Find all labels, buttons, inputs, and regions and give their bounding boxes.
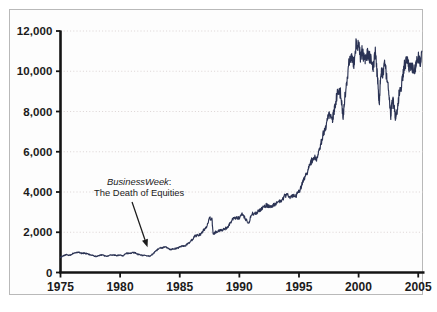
y-tick-label: 0	[46, 267, 53, 279]
y-axis-ticks: 02,0004,0006,0008,00010,00012,000	[17, 25, 61, 279]
annotation-line-1: BusinessWeek:	[107, 176, 171, 187]
x-tick-label: 1980	[107, 280, 134, 294]
x-tick-label: 1990	[226, 280, 253, 294]
x-tick-label: 1975	[47, 280, 74, 294]
data-series-line	[61, 39, 422, 258]
annotation-arrow-shaft	[132, 202, 145, 240]
x-axis-ticks: 1975198019851990199520002005	[47, 273, 432, 295]
x-tick-label: 2005	[405, 280, 432, 294]
x-tick-label: 2000	[345, 280, 372, 294]
annotation-line-2: The Death of Equities	[94, 187, 184, 198]
annotation-arrow-head	[142, 239, 148, 248]
y-tick-label: 12,000	[17, 25, 53, 37]
x-tick-label: 1995	[285, 280, 312, 294]
y-tick-label: 10,000	[17, 65, 53, 77]
chart-annotation: BusinessWeek:The Death of Equities	[94, 176, 184, 247]
y-tick-label: 2,000	[23, 226, 52, 238]
dow-jones-line-chart: 02,0004,0006,0008,00010,00012,0001975198…	[0, 0, 437, 312]
chart-figure: 02,0004,0006,0008,00010,00012,0001975198…	[0, 0, 437, 312]
y-tick-label: 6,000	[23, 146, 52, 158]
y-tick-label: 4,000	[23, 186, 52, 198]
x-tick-label: 1985	[166, 280, 193, 294]
axes	[59, 31, 424, 273]
y-tick-label: 8,000	[23, 106, 52, 118]
